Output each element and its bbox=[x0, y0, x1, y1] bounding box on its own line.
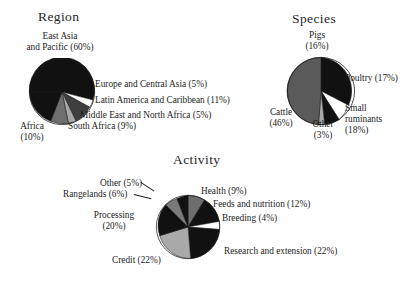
label-species-other-line1: Other bbox=[301, 119, 345, 130]
label-small-ruminants-line2: ruminants bbox=[345, 114, 382, 125]
label-africa: Africa (10%) bbox=[4, 121, 60, 143]
label-east-asia-line1: East Asia bbox=[0, 31, 120, 42]
label-small-ruminants-line3: (18%) bbox=[345, 125, 382, 136]
chart-title-region: Region bbox=[38, 9, 79, 25]
label-processing: Processing (20%) bbox=[78, 210, 150, 232]
label-poultry: Poultry (17%) bbox=[345, 73, 398, 84]
label-africa-line1: Africa bbox=[4, 121, 60, 132]
label-processing-line2: (20%) bbox=[78, 221, 150, 232]
chart-title-activity: Activity bbox=[173, 152, 220, 168]
label-pigs: Pigs (16%) bbox=[286, 30, 348, 52]
label-cattle-line2: (46%) bbox=[254, 118, 308, 129]
label-health: Health (9%) bbox=[201, 186, 247, 197]
label-cattle-line1: Cattle bbox=[254, 107, 308, 118]
label-processing-line1: Processing bbox=[78, 210, 150, 221]
label-east-asia-and-pacific: East Asia and Pacific (60%) bbox=[0, 31, 120, 53]
label-small-ruminants-line1: Small bbox=[345, 103, 382, 114]
label-small-ruminants: Small ruminants (18%) bbox=[345, 103, 382, 137]
label-africa-line2: (10%) bbox=[4, 132, 60, 143]
label-credit: Credit (22%) bbox=[112, 255, 161, 266]
label-species-other-line2: (3%) bbox=[301, 130, 345, 141]
chart-title-species: Species bbox=[292, 11, 336, 27]
label-east-asia-line2: and Pacific (60%) bbox=[0, 42, 120, 53]
label-rangelands: Rangelands (6%) bbox=[63, 189, 127, 200]
label-research-and-extension: Research and extension (22%) bbox=[224, 246, 337, 257]
leader-line-rangelands bbox=[134, 194, 152, 199]
pie-chart-activity bbox=[155, 194, 221, 260]
label-middle-east-and-north-africa: Middle East and North Africa (5%) bbox=[80, 110, 211, 121]
label-species-other: Other (3%) bbox=[301, 119, 345, 141]
label-pigs-line1: Pigs bbox=[286, 30, 348, 41]
pie-activity-svg bbox=[155, 194, 221, 260]
label-south-africa: South Africa (9%) bbox=[68, 121, 136, 132]
three-pie-chart-figure: Region East Asia and Pacific (60%) Europ… bbox=[0, 0, 419, 281]
label-activity-other: Other (5%) bbox=[100, 178, 142, 189]
label-feeds-and-nutrition: Feeds and nutrition (12%) bbox=[213, 199, 310, 210]
leader-line-other bbox=[140, 182, 154, 192]
label-breeding: Breeding (4%) bbox=[222, 213, 277, 224]
label-latin-america-and-caribbean: Latin America and Caribbean (11%) bbox=[95, 95, 230, 106]
label-pigs-line2: (16%) bbox=[286, 41, 348, 52]
slice-research-and-extension bbox=[188, 227, 220, 259]
label-cattle: Cattle (46%) bbox=[254, 107, 308, 129]
label-europe-and-central-asia: Europe and Central Asia (5%) bbox=[95, 79, 207, 90]
